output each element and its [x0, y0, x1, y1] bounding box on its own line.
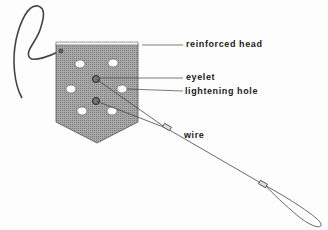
label-eyelet: eyelet	[186, 72, 215, 82]
label-wire: wire	[184, 130, 204, 140]
diagram-canvas: reinforced head eyelet lightening hole w…	[0, 0, 328, 230]
corner-eyelet	[59, 49, 63, 53]
reinforced-head-strip	[56, 42, 138, 45]
pennant	[56, 42, 138, 143]
label-reinforced-head: reinforced head	[186, 39, 263, 49]
rope	[14, 6, 60, 98]
label-lightening-hole: lightening hole	[185, 86, 258, 96]
wire-ferrule-1	[163, 123, 172, 130]
diagram-drawing	[0, 0, 328, 230]
